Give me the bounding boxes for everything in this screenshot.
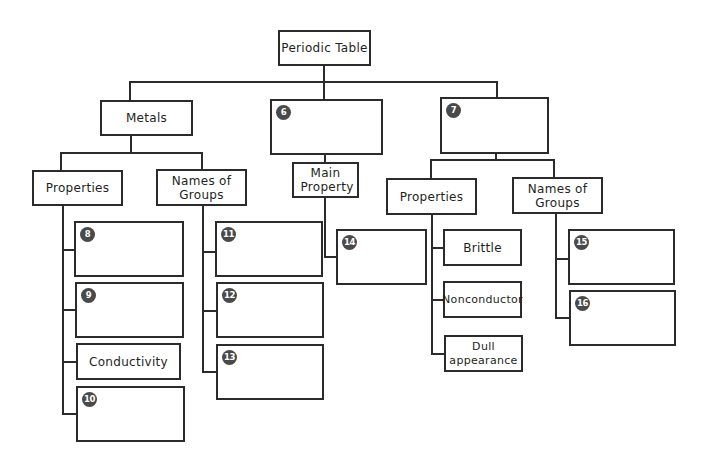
connector-line [431,214,433,354]
number-badge: 7 [446,103,461,118]
node-metals-names-of-groups: Names of Groups [156,169,247,206]
connector-line [430,159,555,161]
node-label: Nonconductor [442,293,523,307]
blank-node-14[interactable]: 14 [336,229,427,285]
connector-line [202,205,204,373]
node-nonconductor: Nonconductor [443,281,522,318]
node-label: Properties [46,181,110,195]
node-label: Dull appearance [449,340,519,368]
number-badge: 9 [81,288,96,303]
number-badge: 10 [82,392,97,407]
connector-line [129,81,131,101]
connector-line [202,251,216,253]
blank-node-15[interactable]: 15 [568,229,675,285]
connector-line [60,152,203,154]
number-badge: 14 [342,235,357,250]
node-label: Names of Groups [167,174,237,202]
number-badge: 6 [276,105,291,120]
node-main-property: Main Property [292,162,359,198]
blank-node-11[interactable]: 11 [215,221,323,277]
connector-line [324,197,326,257]
number-badge: 16 [575,296,590,311]
connector-line [555,213,557,319]
number-badge: 8 [80,227,95,242]
node-label: Conductivity [89,355,168,369]
connector-line [129,81,498,83]
connector-line [62,361,76,363]
connector-line [555,317,569,319]
node-nonmetals-properties: Properties [386,178,477,215]
connector-line [555,258,569,260]
connector-line [496,81,498,98]
node-metals-properties: Properties [32,170,123,206]
node-label: Periodic Table [281,41,367,55]
blank-node-9[interactable]: 9 [75,282,184,338]
connector-line [202,371,216,373]
blank-node-12[interactable]: 12 [216,282,324,338]
node-dull-appearance: Dull appearance [444,335,523,372]
connector-line [323,81,325,100]
node-label: Metals [126,111,167,125]
blank-node-13[interactable]: 13 [216,344,324,400]
number-badge: 15 [574,235,589,250]
blank-node-10[interactable]: 10 [76,386,185,442]
node-nonmetals-names-of-groups: Names of Groups [512,177,603,214]
connector-line [201,152,203,170]
node-label: Main Property [301,166,351,194]
root-node-periodic-table: Periodic Table [278,30,371,66]
node-label: Properties [400,190,464,204]
node-brittle: Brittle [443,229,522,266]
connector-line [553,159,555,178]
connector-line [62,413,76,415]
blank-node-7[interactable]: 7 [440,97,549,154]
node-label: Brittle [463,241,502,255]
connector-line [202,310,216,312]
connector-line [62,309,75,311]
blank-node-6[interactable]: 6 [270,99,383,155]
connector-line [431,353,445,355]
node-conductivity: Conductivity [76,343,181,380]
connector-line [60,152,62,171]
number-badge: 11 [221,227,236,242]
number-badge: 13 [222,350,237,365]
connector-line [430,159,432,179]
node-metals: Metals [100,100,193,136]
blank-node-16[interactable]: 16 [569,290,676,346]
number-badge: 12 [222,288,237,303]
node-label: Names of Groups [523,182,593,210]
blank-node-8[interactable]: 8 [74,221,184,277]
